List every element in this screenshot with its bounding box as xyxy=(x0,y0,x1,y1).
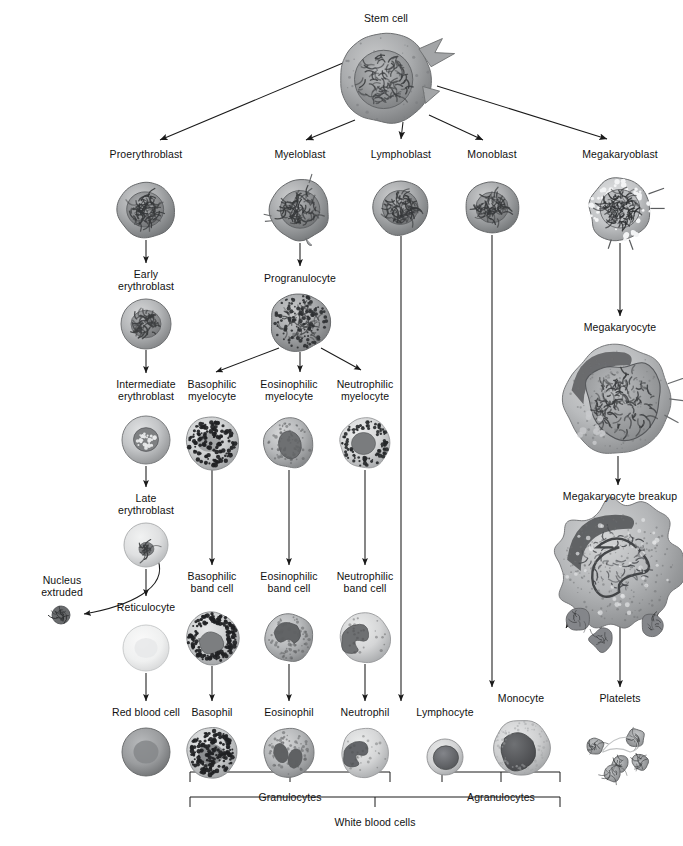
hematopoiesis-diagram: Stem cellProerythroblastMyeloblastLympho… xyxy=(0,0,683,846)
cell-image-progranulocyte xyxy=(249,271,351,373)
label-platelets: Platelets xyxy=(540,692,683,704)
label-nucleus_extruded: Nucleus extruded xyxy=(0,574,142,598)
label-neutrophilic_myelocyte: Neutrophilic myelocyte xyxy=(285,378,445,402)
label-megakaryocyte: Megakaryocyte xyxy=(540,321,683,333)
cell-image-megakaryocyte_breakup xyxy=(534,482,683,650)
label-lymphocyte: Lymphocyte xyxy=(365,706,525,718)
label-late_erythroblast: Late erythroblast xyxy=(66,492,226,516)
label-megakaryocyte_breakup: Megakaryocyte breakup xyxy=(540,490,683,502)
cell-image-monoblast xyxy=(444,160,540,256)
cell-image-neutrophilic_band_cell xyxy=(318,591,412,685)
bracket-label-granulocytes: Granulocytes xyxy=(210,791,370,803)
label-proerythroblast: Proerythroblast xyxy=(66,148,226,160)
cell-image-stem_cell xyxy=(317,9,455,147)
cell-image-myeloblast xyxy=(248,158,352,262)
cell-image-neutrophilic_myelocyte xyxy=(318,396,412,490)
label-stem_cell: Stem cell xyxy=(306,12,466,24)
cell-image-megakaryocyte xyxy=(542,324,683,476)
cell-image-proerythroblast xyxy=(96,160,196,260)
label-progranulocyte: Progranulocyte xyxy=(220,272,380,284)
label-neutrophilic_band_cell: Neutrophilic band cell xyxy=(285,570,445,594)
label-early_erythroblast: Early erythroblast xyxy=(66,268,226,292)
cell-image-megakaryoblast xyxy=(567,157,673,263)
bracket-label-agranulocytes: Agranulocytes xyxy=(421,791,581,803)
cell-image-lymphoblast xyxy=(352,159,450,257)
label-megakaryoblast: Megakaryoblast xyxy=(540,148,683,160)
bracket-label-white_blood_cells: White blood cells xyxy=(295,816,455,828)
label-reticulocyte: Reticulocyte xyxy=(66,601,226,613)
cell-image-neutrophil xyxy=(319,707,411,799)
